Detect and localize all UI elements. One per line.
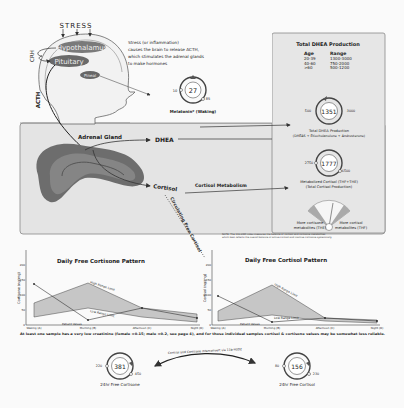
dhea-box-title: Total DHEA Production [296, 41, 360, 47]
svg-text:Night (D): Night (D) [191, 326, 204, 330]
cortisol-chart: Cortisol (ng/mg) 0 50 100 150 200 Daily … [203, 250, 383, 330]
svg-text:Daily Free Cortisol Pattern: Daily Free Cortisol Pattern [245, 257, 327, 264]
svg-text:50: 50 [207, 308, 211, 312]
cortisone-chart: Cortisone (ng/mg) 0 50 100 150 200 Daily… [17, 250, 203, 330]
acth-label: ACTH [35, 91, 41, 108]
svg-text:Afternoon (C): Afternoon (C) [316, 326, 335, 330]
cortisol-24hr-gauge: 156 80 230 24hr Free Cortisol [275, 353, 319, 387]
svg-text:Afternoon (C): Afternoon (C) [133, 326, 152, 330]
svg-text:Daily Free Cortisone Pattern: Daily Free Cortisone Pattern [57, 258, 145, 265]
crh-label: CRH [29, 50, 35, 62]
svg-text:Patient Values: Patient Values [240, 322, 260, 326]
pineal-label: Pineal [84, 73, 96, 78]
footnote: At least one sample has a very low creat… [20, 332, 385, 336]
svg-text:1351: 1351 [321, 108, 336, 115]
svg-text:metabolites (THF): metabolites (THF) [335, 226, 368, 230]
svg-text:Waking (A): Waking (A) [210, 326, 225, 330]
svg-text:3000: 3000 [347, 109, 355, 113]
svg-text:6500: 6500 [342, 169, 350, 173]
svg-text:Cortisone (ng/mg): Cortisone (ng/mg) [17, 271, 21, 303]
svg-text:which best reflects the overal: which best reflects the overall balance … [222, 236, 332, 239]
svg-text:150: 150 [20, 278, 26, 282]
svg-text:200: 200 [206, 263, 212, 267]
svg-text:85: 85 [206, 97, 210, 101]
hypothalamus-label: Hypothalamus [57, 44, 108, 52]
cortisol-metabolism-label: Cortisol Metabolism [195, 183, 247, 188]
svg-text:(DHEAS + Etiocholanolone + And: (DHEAS + Etiocholanolone + Androsterone) [293, 134, 365, 138]
svg-text:Morning (B): Morning (B) [80, 326, 96, 330]
melatonin-value: 27 [189, 87, 197, 95]
svg-text:Night (D): Night (D) [371, 326, 384, 330]
svg-text:200: 200 [20, 263, 26, 267]
svg-text:Morning (B): Morning (B) [264, 326, 280, 330]
stress-label: STRESS [60, 22, 93, 30]
svg-text:Waking (A): Waking (A) [26, 326, 41, 330]
svg-text:1777: 1777 [321, 160, 336, 167]
svg-text:381: 381 [114, 363, 126, 370]
svg-text:500-1200: 500-1200 [330, 65, 350, 70]
svg-text:80: 80 [275, 364, 279, 368]
cortisone-24hr-gauge: 381 220 450 24hr Free Cortisone [96, 353, 141, 387]
svg-text:causes the brain to release AC: causes the brain to release ACTH, [128, 47, 199, 52]
svg-text:metabolites (THE): metabolites (THE) [294, 226, 327, 230]
svg-text:Metabolized Cortisol (THF+THE): Metabolized Cortisol (THF+THE) [300, 180, 358, 184]
svg-text:10: 10 [173, 89, 177, 93]
svg-text:450: 450 [135, 372, 141, 376]
svg-text:150: 150 [206, 278, 212, 282]
svg-text:(Total Cortisol Production): (Total Cortisol Production) [306, 185, 353, 189]
svg-text:which stimulates the adrenal g: which stimulates the adrenal glands [128, 54, 204, 59]
svg-text:More cortisol: More cortisol [339, 221, 362, 225]
svg-text:156: 156 [291, 363, 303, 370]
adrenal-gland-title: Adrenal Gland [78, 134, 122, 140]
svg-text:>60: >60 [304, 65, 313, 70]
svg-text:500: 500 [305, 109, 311, 113]
svg-text:230: 230 [313, 372, 319, 376]
svg-text:2750: 2750 [305, 161, 313, 165]
svg-text:More cortisone: More cortisone [297, 221, 324, 225]
svg-text:24hr Free Cortisone: 24hr Free Cortisone [100, 382, 140, 387]
svg-text:24hr Free Cortisol: 24hr Free Cortisol [279, 382, 315, 387]
svg-text:Melatonin* (Waking): Melatonin* (Waking) [170, 109, 217, 114]
svg-text:0: 0 [23, 323, 25, 327]
svg-text:to make hormones: to make hormones [128, 61, 167, 66]
svg-text:Low Range Limit: Low Range Limit [274, 316, 300, 320]
svg-text:Total DHEA Production: Total DHEA Production [308, 129, 349, 133]
dutch-adrenal-diagram: Hypothalamus Pituitary Pineal STRESS CRH… [0, 0, 404, 408]
svg-text:100: 100 [20, 293, 26, 297]
svg-text:220: 220 [96, 364, 102, 368]
pituitary-label: Pituitary [54, 58, 83, 66]
svg-text:Stress (or inflammation): Stress (or inflammation) [128, 40, 179, 45]
svg-text:50: 50 [21, 308, 25, 312]
dhea-label: DHEA [155, 136, 174, 143]
svg-text:100: 100 [206, 293, 212, 297]
